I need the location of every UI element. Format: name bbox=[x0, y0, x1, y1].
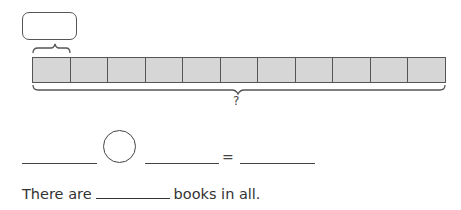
bar-cell bbox=[108, 58, 146, 82]
bar-cell bbox=[71, 58, 109, 82]
small-brace-icon bbox=[33, 44, 70, 53]
braces-layer bbox=[0, 0, 461, 210]
equals-sign: = bbox=[222, 149, 234, 165]
sentence-answer-blank[interactable] bbox=[96, 197, 170, 199]
second-number-blank[interactable] bbox=[145, 163, 219, 164]
bar-cell bbox=[33, 58, 71, 82]
sentence-prefix: There are bbox=[22, 186, 92, 202]
first-number-blank[interactable] bbox=[22, 163, 97, 164]
bar-cell bbox=[371, 58, 409, 82]
total-question-mark: ? bbox=[233, 94, 239, 108]
bar-cell bbox=[146, 58, 184, 82]
bar-cell bbox=[333, 58, 371, 82]
bar-cell bbox=[296, 58, 334, 82]
answer-sentence: There arebooks in all. bbox=[22, 186, 260, 202]
bar-cell bbox=[258, 58, 296, 82]
bar-cell bbox=[221, 58, 259, 82]
sentence-suffix: books in all. bbox=[174, 186, 261, 202]
bar-cell bbox=[408, 58, 445, 82]
large-brace-icon bbox=[33, 85, 445, 94]
bar-cell bbox=[183, 58, 221, 82]
bar-model bbox=[32, 57, 446, 83]
result-blank[interactable] bbox=[240, 163, 315, 164]
operator-circle[interactable] bbox=[103, 130, 136, 163]
